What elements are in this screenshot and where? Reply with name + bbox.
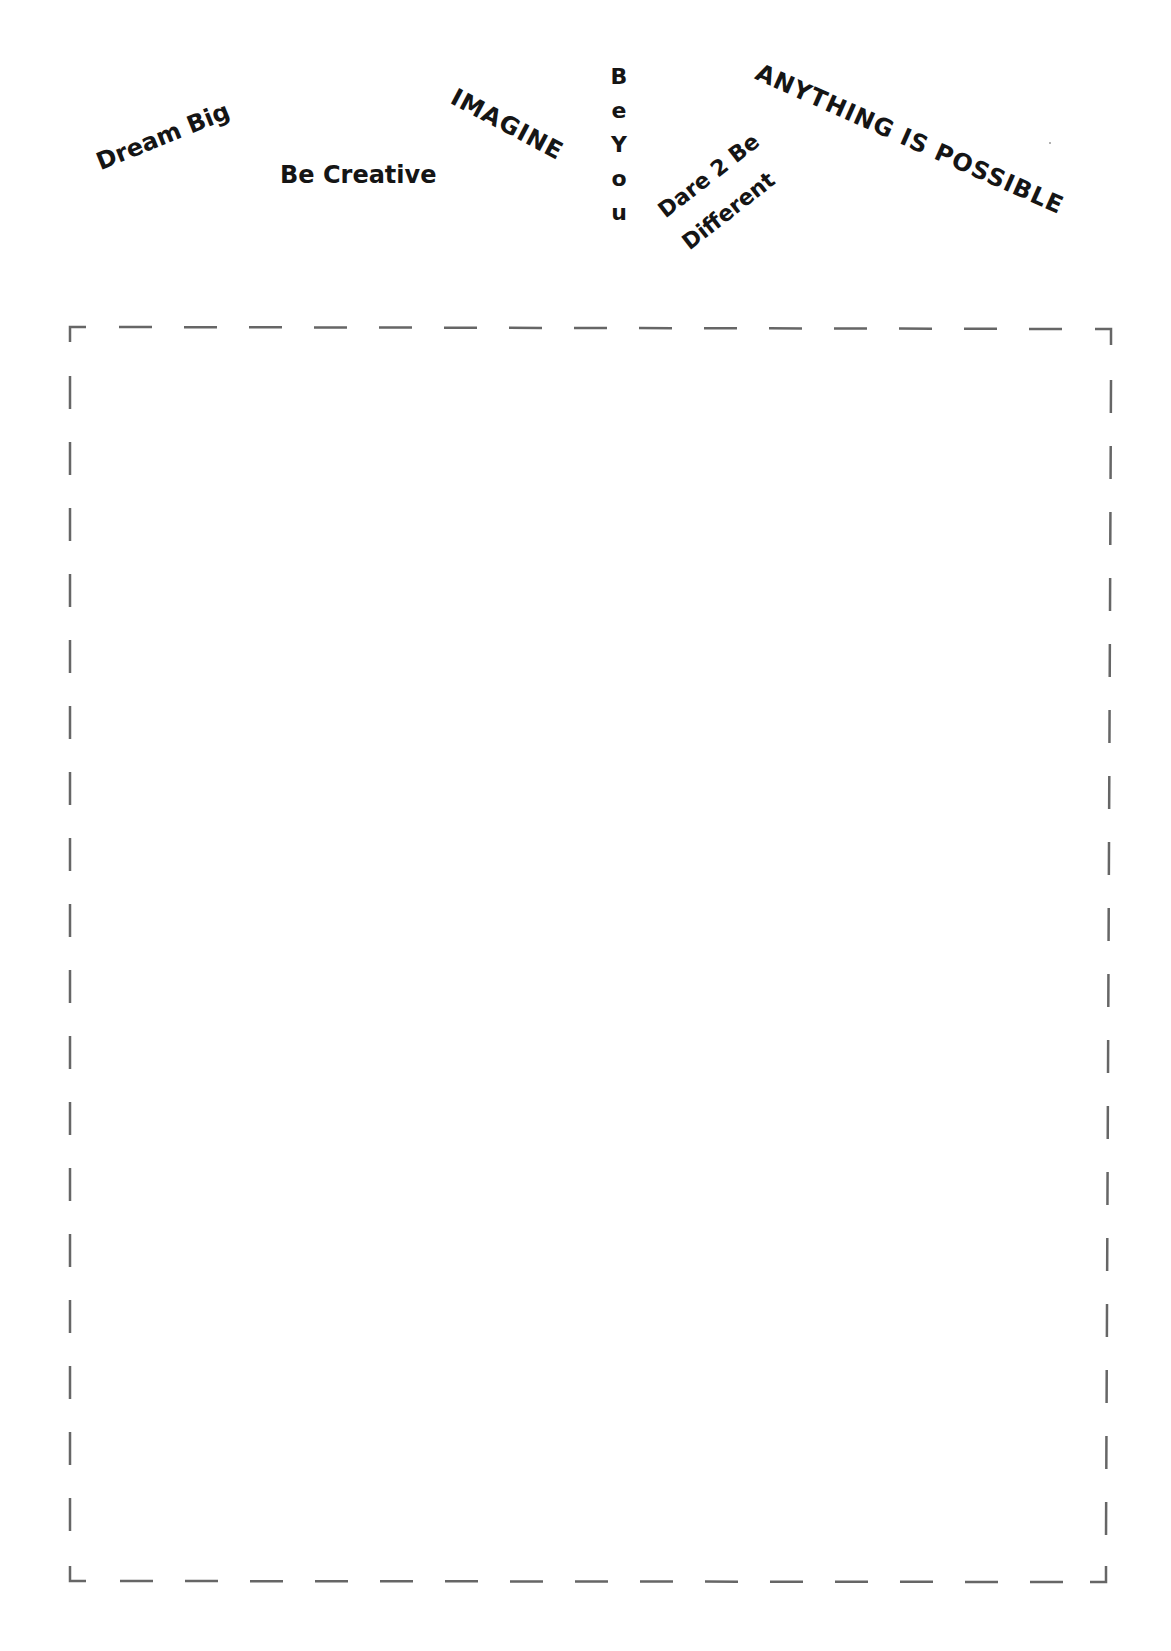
right-edge [1106, 380, 1111, 1540]
bottom-edge [120, 1581, 1080, 1582]
drawing-area-dashed-frame [0, 0, 1171, 1651]
corner-top-right [1095, 329, 1111, 345]
corner-top-left [70, 327, 86, 342]
top-edge [119, 327, 1085, 329]
worksheet-page: { "page": { "background": "#ffffff", "te… [0, 0, 1171, 1651]
corner-bottom-right [1090, 1566, 1106, 1582]
corner-bottom-left [70, 1566, 86, 1581]
